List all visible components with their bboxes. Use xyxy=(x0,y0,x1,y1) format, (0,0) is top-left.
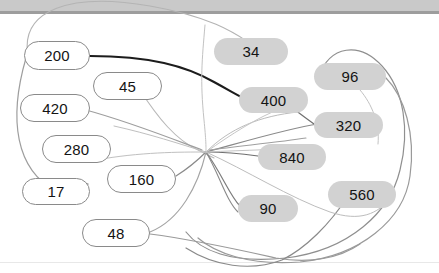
graph-node-label: 420 xyxy=(42,100,68,117)
diagram-canvas: 200349645400420320280840160560179048 xyxy=(0,0,439,273)
graph-node-280[interactable]: 280 xyxy=(42,135,111,163)
graph-node-label: 160 xyxy=(129,171,155,188)
graph-node-320[interactable]: 320 xyxy=(314,112,383,138)
graph-node-34[interactable]: 34 xyxy=(214,38,288,65)
graph-node-label: 17 xyxy=(47,183,64,200)
graph-node-label: 45 xyxy=(119,78,136,95)
graph-node-160[interactable]: 160 xyxy=(107,165,176,193)
graph-edge xyxy=(114,126,206,152)
graph-node-label: 90 xyxy=(259,200,276,217)
graph-node-200[interactable]: 200 xyxy=(24,41,90,70)
graph-node-17[interactable]: 17 xyxy=(22,178,90,205)
graph-node-label: 200 xyxy=(44,47,70,64)
graph-node-96[interactable]: 96 xyxy=(314,63,386,90)
graph-edge xyxy=(206,152,238,212)
graph-node-840[interactable]: 840 xyxy=(258,144,326,170)
graph-edge xyxy=(96,152,206,160)
graph-node-45[interactable]: 45 xyxy=(93,72,162,100)
graph-node-label: 280 xyxy=(64,141,90,158)
graph-node-label: 400 xyxy=(261,92,287,109)
graph-edge xyxy=(176,152,206,176)
graph-node-90[interactable]: 90 xyxy=(238,195,298,222)
graph-node-label: 96 xyxy=(341,68,358,85)
graph-edge xyxy=(17,58,56,191)
graph-node-label: 48 xyxy=(107,225,124,242)
graph-node-label: 840 xyxy=(279,149,305,166)
graph-node-label: 560 xyxy=(349,186,375,203)
graph-node-48[interactable]: 48 xyxy=(82,219,150,247)
graph-node-420[interactable]: 420 xyxy=(20,94,90,122)
graph-node-label: 320 xyxy=(336,117,362,134)
graph-node-560[interactable]: 560 xyxy=(328,181,396,208)
graph-node-label: 34 xyxy=(242,43,259,60)
graph-node-400[interactable]: 400 xyxy=(239,87,308,113)
graph-edge xyxy=(202,25,206,152)
